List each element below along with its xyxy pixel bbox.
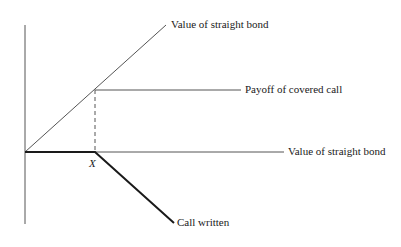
label-covered-call: Payoff of covered call [245,83,342,95]
strike-label-x: X [88,157,97,169]
label-straight-bond-upper: Value of straight bond [171,18,269,30]
call-written-line [25,152,174,223]
payoff-diagram: Value of straight bond Payoff of covered… [0,0,401,247]
label-straight-bond-lower: Value of straight bond [288,145,386,157]
label-call-written: Call written [177,216,230,228]
